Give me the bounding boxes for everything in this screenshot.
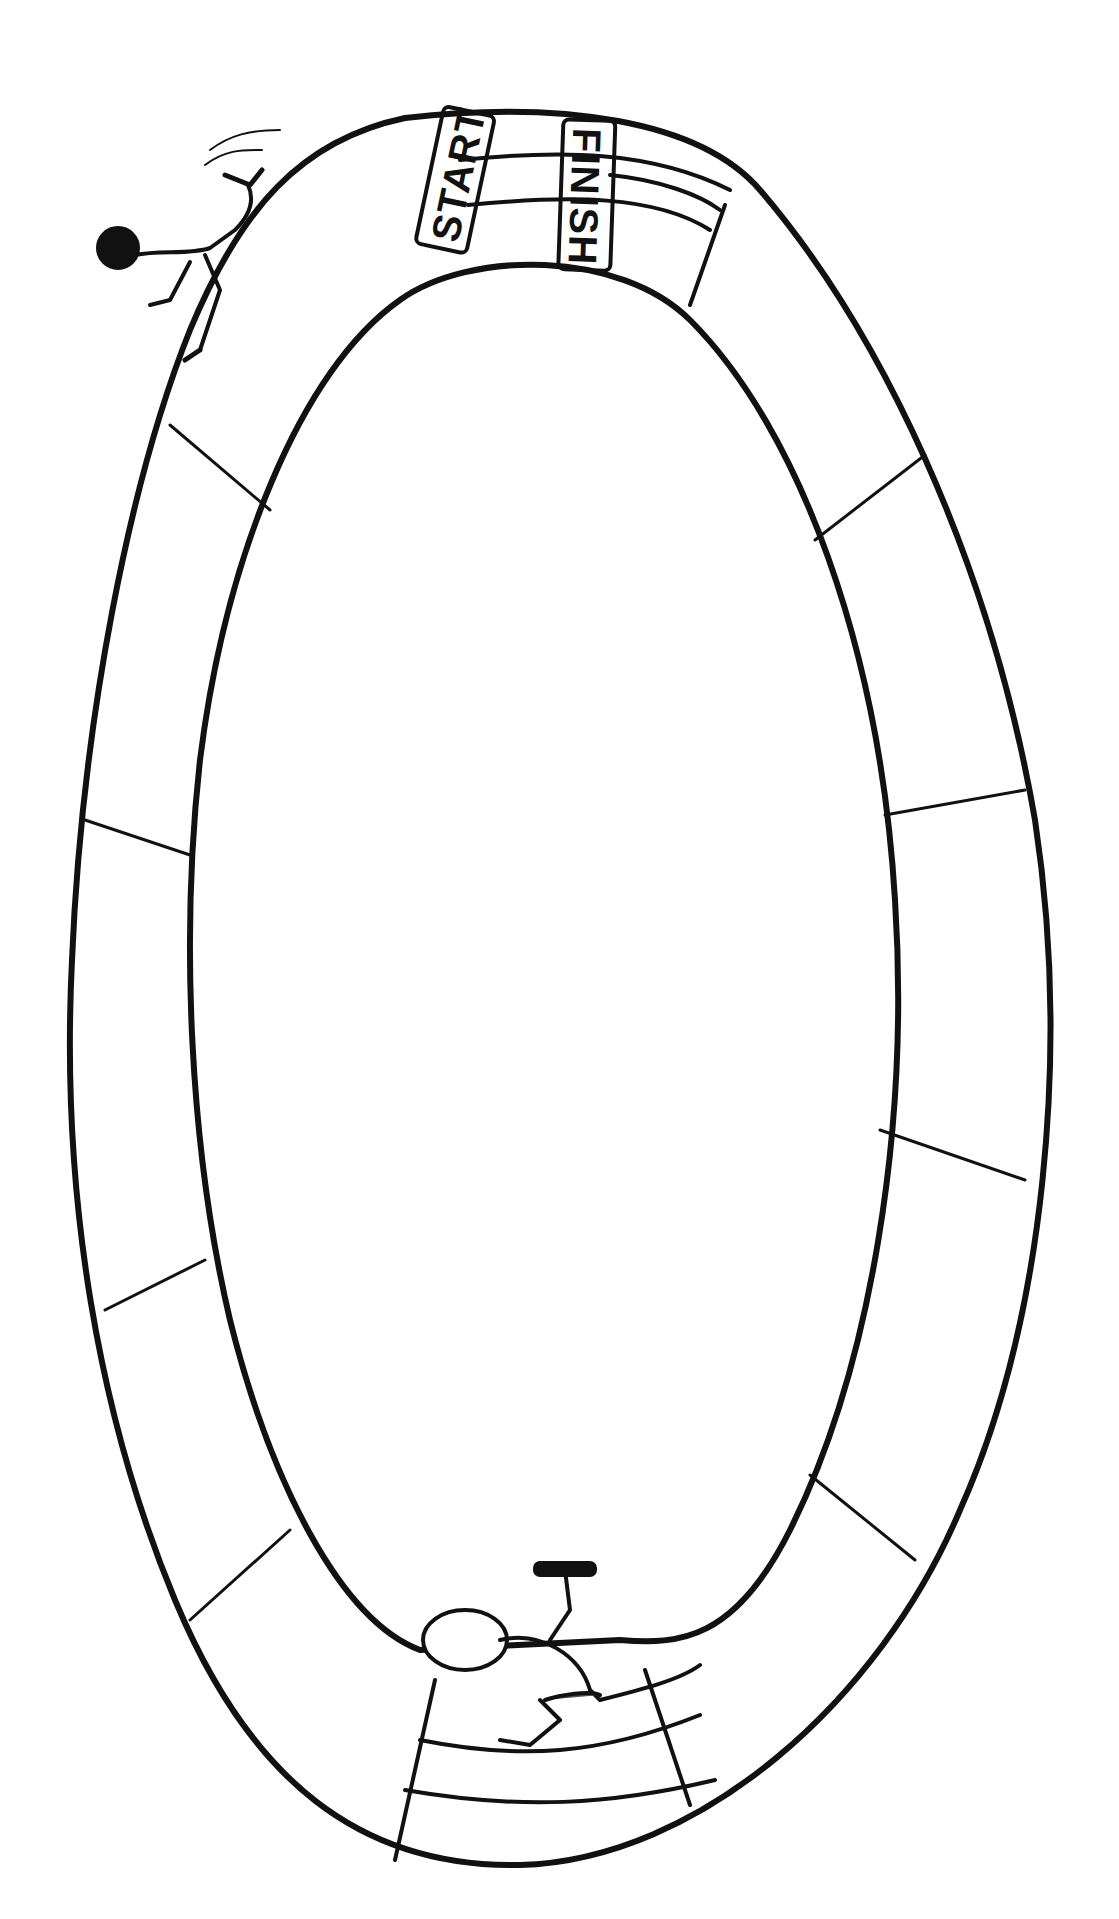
track-segment-dividers: [85, 425, 1025, 1620]
track-illustration: START FINISH: [0, 0, 1119, 1919]
bottom-area-right-edge: [645, 1670, 690, 1805]
track-outer-edge: [70, 112, 1050, 1865]
bottom-lane-line-2: [405, 1780, 715, 1802]
start-sign: START: [415, 103, 496, 254]
track-inner-edge: [190, 265, 898, 1650]
runner-head: [98, 228, 138, 268]
runner-bottom-relay: [423, 1563, 700, 1745]
finish-label: FINISH: [560, 127, 609, 266]
finish-sign: FINISH: [558, 119, 615, 271]
bottom-area-left-edge: [395, 1680, 435, 1860]
runner-head: [423, 1610, 507, 1670]
